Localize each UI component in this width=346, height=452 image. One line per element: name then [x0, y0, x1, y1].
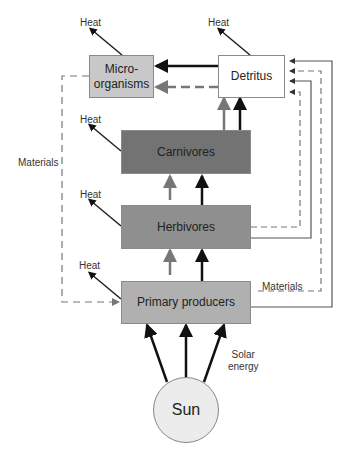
sun-circle: Sun: [153, 377, 219, 443]
detritus-box: Detritus: [218, 55, 285, 98]
materials-label-right: Materials: [262, 281, 303, 293]
primary-producers-label: Primary producers: [137, 295, 235, 310]
heat-label-carnivores: Heat: [80, 114, 101, 126]
solar-energy-line2: energy: [228, 361, 259, 373]
carnivores-box: Carnivores: [121, 130, 251, 174]
heat-label-primary-producers: Heat: [79, 260, 100, 272]
heat-label-microorganisms: Heat: [80, 17, 101, 29]
heat-label-herbivores: Heat: [80, 189, 101, 201]
carnivores-label: Carnivores: [157, 145, 215, 160]
microorganisms-box: Micro- organisms: [89, 55, 154, 98]
sun-label: Sun: [172, 401, 200, 419]
primary-producers-box: Primary producers: [121, 281, 251, 324]
microorganisms-label: Micro- organisms: [94, 62, 149, 92]
solar-energy-line1: Solar: [228, 349, 259, 361]
detritus-label: Detritus: [231, 69, 272, 84]
materials-label-left: Materials: [18, 157, 59, 169]
solar-energy-label: Solar energy: [228, 349, 259, 373]
heat-label-detritus: Heat: [208, 17, 229, 29]
herbivores-box: Herbivores: [121, 205, 251, 249]
herbivores-label: Herbivores: [157, 220, 215, 235]
